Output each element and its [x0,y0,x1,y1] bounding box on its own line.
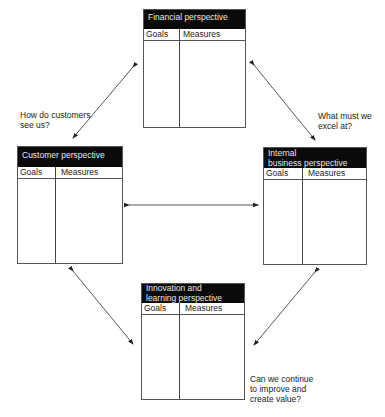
internal-column-headers: Goals Measures [264,168,366,180]
innovation-header: Innovation and learning perspective [142,284,244,303]
customer-measures-label: Measures [61,167,98,178]
customer-header: Customer perspective [18,147,122,167]
arrow-customer-innovation [73,271,133,344]
innovation-measures-label: Measures [185,303,222,314]
innovation-question-line1: Can we continue [250,374,313,384]
innovation-question-line3: create value? [250,394,313,404]
internal-question-line2: excel at? [318,121,372,131]
internal-header: Internal business perspective [264,148,366,168]
innovation-learning-perspective-box: Innovation and learning perspective Goal… [141,283,245,400]
internal-title-line2: business perspective [268,159,362,169]
internal-goals-label: Goals [266,168,288,179]
internal-question-line1: What must we [318,111,372,121]
innovation-column-headers: Goals Measures [142,303,244,315]
innovation-title-line2: learning perspective [146,294,240,304]
financial-column-divider [179,29,180,127]
internal-measures-label: Measures [308,168,345,179]
customer-question-line1: How do customers [20,110,90,120]
arrow-internal-innovation [254,272,315,345]
innovation-column-divider [179,303,180,399]
innovation-question-line2: to improve and [250,384,313,394]
customer-goals-label: Goals [20,167,42,178]
customer-title: Customer perspective [22,150,105,160]
arrow-financial-internal [254,65,315,140]
financial-goals-label: Goals [146,29,168,40]
customer-column-divider [55,167,56,263]
financial-column-headers: Goals Measures [144,29,245,41]
financial-perspective-box: Financial perspective Goals Measures [143,9,246,128]
financial-measures-label: Measures [183,29,220,40]
financial-header: Financial perspective [144,10,245,29]
customer-question-line2: see us? [20,120,90,130]
financial-title: Financial perspective [148,12,228,22]
innovation-goals-label: Goals [144,303,166,314]
internal-column-divider [302,168,303,264]
innovation-question: Can we continue to improve and create va… [250,374,313,404]
customer-column-headers: Goals Measures [18,167,122,179]
internal-business-perspective-box: Internal business perspective Goals Meas… [263,147,367,265]
customer-question: How do customers see us? [20,110,90,130]
customer-perspective-box: Customer perspective Goals Measures [17,146,123,264]
internal-question: What must we excel at? [318,111,372,131]
